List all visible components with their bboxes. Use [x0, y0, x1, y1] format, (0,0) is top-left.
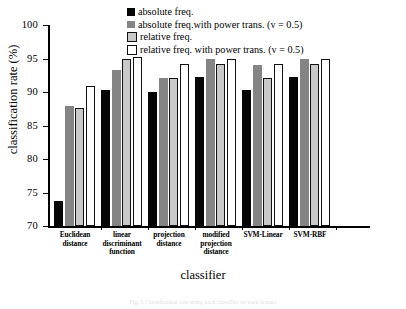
x-tick-mark [101, 226, 102, 230]
bar [54, 201, 63, 226]
legend-item: absolute freq.with power trans. (v = 0.5… [127, 19, 304, 31]
bar [227, 59, 236, 227]
bar [180, 64, 189, 226]
x-category-label-line: distance [180, 248, 252, 257]
legend-swatch [127, 45, 137, 55]
legend-label: absolute freq. [138, 7, 193, 17]
bar [133, 57, 142, 226]
bar [112, 70, 121, 226]
legend-item: relative freq. [127, 31, 304, 43]
legend: absolute freq.absolute freq.with power t… [127, 6, 304, 56]
bar [263, 78, 272, 226]
bar-group [54, 25, 96, 226]
legend-swatch [127, 21, 135, 28]
legend-item: absolute freq. [127, 6, 304, 18]
y-tick-mark [43, 92, 48, 93]
x-category-label: SVM-RBF [274, 231, 346, 240]
bar [86, 86, 95, 226]
x-axis-line [48, 226, 370, 228]
bar [321, 59, 330, 227]
x-tick-mark [289, 226, 290, 230]
x-tick-mark [195, 226, 196, 230]
bar [242, 90, 251, 226]
bar [75, 108, 84, 226]
y-tick-mark [43, 59, 48, 60]
y-tick-mark [43, 25, 48, 26]
y-tick-mark [43, 226, 48, 227]
y-tick-mark [43, 193, 48, 194]
bar [195, 77, 204, 226]
y-axis-line [48, 25, 50, 228]
legend-label: relative freq. [140, 32, 192, 42]
bar [159, 78, 168, 226]
legend-item: relative freq. with power trans. (v = 0.… [127, 44, 304, 56]
x-category-label-line: SVM-RBF [274, 231, 346, 240]
bar [169, 78, 178, 226]
bar [65, 106, 74, 226]
bar [300, 59, 309, 227]
figure-caption: Fig. 5 Classification rate using each cl… [0, 299, 406, 308]
bar [148, 92, 157, 226]
y-tick-mark [43, 159, 48, 160]
legend-label: absolute freq.with power trans. (v = 0.5… [138, 20, 302, 30]
bar [289, 77, 298, 226]
x-tick-mark [336, 226, 337, 230]
legend-swatch [127, 8, 135, 16]
x-axis-title: classifier [0, 268, 406, 283]
y-tick-label: 70 [0, 221, 38, 231]
legend-label: relative freq. with power trans. (v = 0.… [140, 45, 304, 55]
y-tick-mark [43, 126, 48, 127]
bar [216, 64, 225, 226]
bar [206, 59, 215, 227]
bar [101, 90, 110, 226]
bar [274, 64, 283, 226]
chart-figure: 707580859095100 Euclideandistancelineard… [0, 0, 406, 309]
bar [122, 59, 131, 227]
y-axis-title: classification rate (%) [6, 5, 21, 195]
legend-swatch [127, 32, 137, 42]
bar [253, 65, 262, 226]
x-category-label-line: function [86, 248, 158, 257]
x-tick-mark [148, 226, 149, 230]
bar [310, 64, 319, 226]
